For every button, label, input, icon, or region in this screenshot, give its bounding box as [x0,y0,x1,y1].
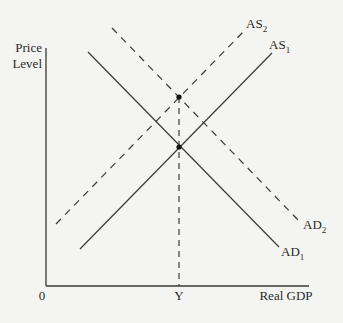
ad1-label: AD1 [281,244,304,262]
initial-equilibrium-point [176,144,181,149]
y-axis-label-level: Level [12,56,42,71]
ad2-label: AD2 [303,217,326,235]
ad-as-diagram: Price Level AS2 AS1 AD2 AD1 0 Y Real GDP [0,0,343,323]
origin-label: 0 [39,288,46,303]
as2-label: AS2 [246,16,267,34]
new-equilibrium-point [176,94,181,99]
as2-curve [56,31,244,224]
as1-curve [80,53,272,249]
x-axis-label: Real GDP [259,288,312,303]
ad2-curve [112,28,300,222]
output-y-label: Y [174,288,184,303]
as1-label: AS1 [269,37,290,55]
y-axis-label-price: Price [15,40,42,55]
ad1-curve [88,52,279,247]
